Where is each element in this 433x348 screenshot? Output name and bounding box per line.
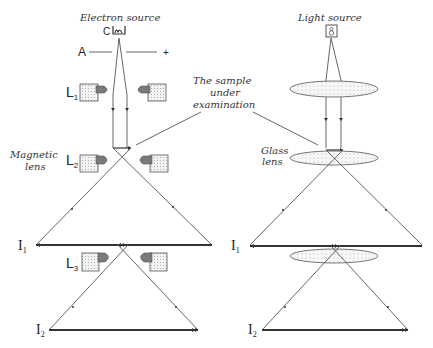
anode-plus: + (163, 47, 169, 58)
callout-line2: under (210, 87, 241, 98)
image-label-i2-left: I2 (36, 322, 45, 339)
magnetic-lens-label-1: Magnetic (9, 149, 58, 160)
condenser-glass-lens (290, 81, 378, 97)
light-ray-to-i1-right (326, 150, 422, 245)
light-microscope: Light source Glass lens I1 (231, 12, 422, 339)
image-label-i2-right: I2 (248, 322, 257, 339)
glass-lens-label-2: lens (262, 156, 283, 167)
magnetic-lens-l1 (80, 84, 166, 101)
callout-pointer-right (253, 112, 318, 145)
electron-microscope: Electron source C A + L1 Magnetic lens L… (9, 12, 212, 339)
image-label-i1-right: I1 (231, 238, 240, 255)
eyepiece-glass-lens (290, 249, 378, 263)
magnetic-lens-l2 (80, 155, 168, 172)
anode-label: A (78, 45, 86, 59)
lens-label-l2: L2 (66, 152, 79, 170)
filament-icon (113, 26, 125, 34)
image-label-i1-left: I1 (18, 238, 27, 255)
microscope-comparison-diagram: Electron source C A + L1 Magnetic lens L… (0, 0, 433, 348)
cathode-label: C (103, 26, 110, 37)
magnetic-lens-l3 (82, 253, 167, 271)
callout-pointer-left (136, 112, 201, 145)
beam-left (113, 38, 119, 148)
magnetic-lens-label-2: lens (25, 161, 46, 172)
light-source-title: Light source (297, 12, 362, 23)
callout-line3: examination (193, 99, 255, 110)
beam-right (119, 38, 127, 148)
callout-line1: The sample (193, 75, 251, 86)
lens-label-l3: L3 (66, 255, 79, 273)
lens-label-l1: L1 (66, 84, 79, 102)
electron-source-title: Electron source (79, 12, 160, 23)
glass-lens-label-1: Glass (261, 145, 288, 156)
lamp-icon (326, 25, 337, 37)
